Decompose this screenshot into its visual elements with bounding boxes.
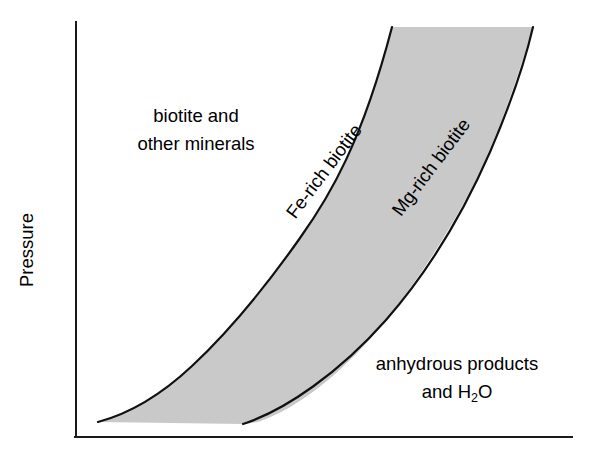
anhydrous-water-subscript: 2 [471,391,478,405]
region-label-anhydrous-line2: and H2O [422,381,493,405]
region-label-anhydrous-line1: anhydrous products [376,353,539,374]
region-label-biotite-line1: biotite and [153,105,238,126]
region-label-biotite-line2: other minerals [137,133,254,154]
phase-diagram-canvas: Pressure biotite and other minerals Fe-r… [0,0,595,461]
phase-diagram-figure: Pressure biotite and other minerals Fe-r… [0,0,595,461]
anhydrous-water-suffix: O [478,381,492,402]
y-axis-title: Pressure [16,213,37,287]
anhydrous-water-prefix: and H [422,381,471,402]
